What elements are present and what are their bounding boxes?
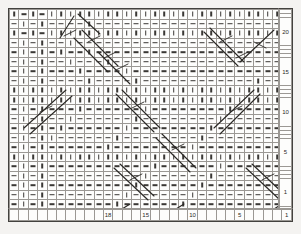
stitch-cell-knit[interactable] bbox=[160, 86, 169, 96]
stitch-cell-purl[interactable] bbox=[179, 171, 188, 181]
stitch-cell-purl[interactable] bbox=[263, 48, 272, 58]
stitch-cell-purl[interactable] bbox=[141, 67, 150, 77]
stitch-cell-purl[interactable] bbox=[141, 124, 150, 134]
stitch-cell-purl[interactable] bbox=[103, 133, 112, 143]
stitch-cell-knit[interactable] bbox=[141, 10, 150, 20]
stitch-cell-knit[interactable] bbox=[113, 86, 122, 96]
stitch-cell-knit[interactable] bbox=[244, 10, 253, 20]
stitch-cell-purl[interactable] bbox=[132, 190, 141, 200]
stitch-cell-purl[interactable] bbox=[28, 162, 37, 172]
stitch-cell-knit[interactable] bbox=[197, 133, 206, 143]
stitch-cell-purl[interactable] bbox=[141, 133, 150, 143]
stitch-cell-purl[interactable] bbox=[150, 181, 159, 191]
stitch-cell-purl[interactable] bbox=[179, 57, 188, 67]
stitch-cell-purl[interactable] bbox=[122, 162, 131, 172]
stitch-cell-knit[interactable] bbox=[66, 10, 75, 20]
stitch-cell-knit[interactable] bbox=[103, 57, 112, 67]
stitch-cell-purl[interactable] bbox=[94, 190, 103, 200]
stitch-cell-purl[interactable] bbox=[150, 19, 159, 29]
stitch-cell-knit[interactable] bbox=[254, 29, 263, 39]
stitch-cell-purl[interactable] bbox=[254, 38, 263, 48]
stitch-cell-knit[interactable] bbox=[10, 29, 19, 39]
stitch-cell-purl[interactable] bbox=[179, 67, 188, 77]
stitch-cell-knit[interactable] bbox=[197, 29, 206, 39]
stitch-cell-purl[interactable] bbox=[207, 67, 216, 77]
stitch-cell-purl[interactable] bbox=[28, 143, 37, 153]
stitch-cell-purl[interactable] bbox=[244, 38, 253, 48]
stitch-cell-purl[interactable] bbox=[244, 57, 253, 67]
stitch-cell-purl[interactable] bbox=[244, 143, 253, 153]
stitch-cell-knit[interactable] bbox=[38, 76, 47, 86]
stitch-cell-purl[interactable] bbox=[179, 48, 188, 58]
stitch-cell-knit[interactable] bbox=[47, 86, 56, 96]
stitch-cell-purl[interactable] bbox=[179, 162, 188, 172]
stitch-cell-purl[interactable] bbox=[113, 67, 122, 77]
stitch-cell-knit[interactable] bbox=[103, 86, 112, 96]
stitch-cell-purl[interactable] bbox=[122, 181, 131, 191]
stitch-cell-purl[interactable] bbox=[141, 19, 150, 29]
stitch-cell-purl[interactable] bbox=[235, 38, 244, 48]
stitch-cell-purl[interactable] bbox=[28, 114, 37, 124]
stitch-cell-purl[interactable] bbox=[47, 67, 56, 77]
stitch-cell-purl[interactable] bbox=[85, 67, 94, 77]
stitch-cell-purl[interactable] bbox=[150, 105, 159, 115]
stitch-cell-purl[interactable] bbox=[225, 19, 234, 29]
stitch-cell-purl[interactable] bbox=[56, 143, 65, 153]
stitch-cell-knit[interactable] bbox=[47, 10, 56, 20]
stitch-cell-purl[interactable] bbox=[10, 76, 19, 86]
stitch-cell-knit[interactable] bbox=[216, 95, 225, 105]
stitch-cell-purl[interactable] bbox=[225, 114, 234, 124]
stitch-cell-knit[interactable] bbox=[19, 38, 28, 48]
stitch-cell-knit[interactable] bbox=[75, 29, 84, 39]
stitch-cell-purl[interactable] bbox=[56, 181, 65, 191]
stitch-cell-purl[interactable] bbox=[216, 190, 225, 200]
stitch-cell-knit[interactable] bbox=[38, 38, 47, 48]
stitch-cell-purl[interactable] bbox=[113, 181, 122, 191]
stitch-cell-purl[interactable] bbox=[94, 133, 103, 143]
stitch-cell-purl[interactable] bbox=[216, 67, 225, 77]
stitch-cell-purl[interactable] bbox=[75, 57, 84, 67]
stitch-cell-purl[interactable] bbox=[160, 105, 169, 115]
stitch-cell-purl[interactable] bbox=[235, 67, 244, 77]
stitch-cell-purl[interactable] bbox=[197, 67, 206, 77]
stitch-cell-purl[interactable] bbox=[132, 162, 141, 172]
stitch-cell-purl[interactable] bbox=[122, 114, 131, 124]
stitch-cell-purl[interactable] bbox=[94, 162, 103, 172]
stitch-cell-purl[interactable] bbox=[103, 171, 112, 181]
stitch-cell-knit[interactable] bbox=[150, 10, 159, 20]
stitch-cell-purl[interactable] bbox=[141, 57, 150, 67]
stitch-cell-knit[interactable] bbox=[19, 67, 28, 77]
stitch-cell-purl[interactable] bbox=[160, 76, 169, 86]
stitch-cell-purl[interactable] bbox=[122, 19, 131, 29]
stitch-cell-purl[interactable] bbox=[85, 38, 94, 48]
stitch-cell-knit[interactable] bbox=[56, 124, 65, 134]
stitch-cell-purl[interactable] bbox=[225, 124, 234, 134]
stitch-cell-purl[interactable] bbox=[263, 114, 272, 124]
stitch-cell-knit[interactable] bbox=[150, 86, 159, 96]
stitch-cell-purl[interactable] bbox=[10, 114, 19, 124]
stitch-cell-purl[interactable] bbox=[56, 38, 65, 48]
stitch-cell-purl[interactable] bbox=[188, 171, 197, 181]
stitch-cell-knit[interactable] bbox=[225, 105, 234, 115]
stitch-cell-purl[interactable] bbox=[85, 181, 94, 191]
stitch-cell-knit[interactable] bbox=[160, 152, 169, 162]
stitch-cell-knit[interactable] bbox=[38, 133, 47, 143]
stitch-cell-knit[interactable] bbox=[132, 95, 141, 105]
stitch-cell-purl[interactable] bbox=[150, 48, 159, 58]
stitch-cell-purl[interactable] bbox=[188, 162, 197, 172]
stitch-cell-purl[interactable] bbox=[244, 190, 253, 200]
stitch-cell-purl[interactable] bbox=[197, 57, 206, 67]
stitch-cell-purl[interactable] bbox=[179, 181, 188, 191]
stitch-cell-knit[interactable] bbox=[179, 86, 188, 96]
stitch-cell-purl[interactable] bbox=[263, 190, 272, 200]
stitch-cell-purl[interactable] bbox=[94, 114, 103, 124]
stitch-cell-purl[interactable] bbox=[188, 38, 197, 48]
stitch-cell-knit[interactable] bbox=[94, 86, 103, 96]
stitch-cell-purl[interactable] bbox=[132, 143, 141, 153]
stitch-cell-purl[interactable] bbox=[263, 143, 272, 153]
stitch-cell-purl[interactable] bbox=[235, 105, 244, 115]
stitch-cell-purl[interactable] bbox=[132, 124, 141, 134]
stitch-cell-purl[interactable] bbox=[254, 57, 263, 67]
stitch-cell-purl[interactable] bbox=[244, 114, 253, 124]
stitch-cell-purl[interactable] bbox=[47, 124, 56, 134]
